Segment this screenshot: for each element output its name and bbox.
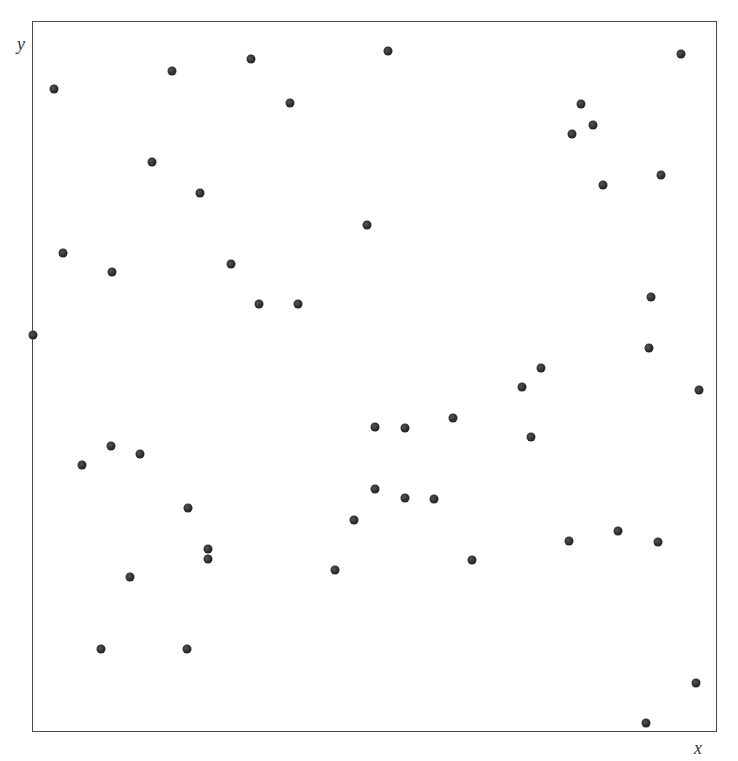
data-point — [247, 54, 256, 63]
scatter-chart: y x — [0, 0, 738, 761]
data-point — [125, 573, 134, 582]
data-point — [641, 718, 650, 727]
data-point — [676, 49, 685, 58]
data-point — [517, 383, 526, 392]
data-point — [613, 526, 622, 535]
data-point — [204, 545, 213, 554]
data-point — [526, 432, 535, 441]
data-point — [286, 98, 295, 107]
data-point — [654, 538, 663, 547]
data-point — [293, 299, 302, 308]
data-point — [49, 85, 58, 94]
data-point — [97, 644, 106, 653]
data-point — [589, 120, 598, 129]
data-point — [467, 555, 476, 564]
data-point — [195, 189, 204, 198]
data-point — [599, 181, 608, 190]
data-point — [430, 494, 439, 503]
data-point — [536, 363, 545, 372]
data-point — [108, 267, 117, 276]
data-point — [576, 100, 585, 109]
data-point — [645, 344, 654, 353]
data-point — [695, 386, 704, 395]
data-point — [184, 504, 193, 513]
data-point — [28, 331, 37, 340]
data-point — [449, 413, 458, 422]
data-point — [401, 423, 410, 432]
data-point — [58, 248, 67, 257]
data-point — [349, 516, 358, 525]
data-point — [362, 221, 371, 230]
data-point — [182, 644, 191, 653]
data-point — [254, 299, 263, 308]
y-axis-label: y — [17, 35, 25, 53]
x-axis-label: x — [694, 739, 702, 757]
plot-area — [32, 21, 717, 732]
data-point — [106, 442, 115, 451]
data-point — [147, 157, 156, 166]
data-point — [384, 46, 393, 55]
data-point — [78, 460, 87, 469]
data-point — [227, 260, 236, 269]
data-point — [136, 449, 145, 458]
data-point — [565, 536, 574, 545]
data-point — [567, 130, 576, 139]
data-point — [401, 494, 410, 503]
data-point — [656, 171, 665, 180]
data-point — [167, 66, 176, 75]
data-point — [330, 565, 339, 574]
data-point — [371, 422, 380, 431]
data-point — [204, 555, 213, 564]
data-point — [371, 484, 380, 493]
data-point — [647, 292, 656, 301]
data-point — [691, 678, 700, 687]
